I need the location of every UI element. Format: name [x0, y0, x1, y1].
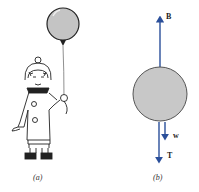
caption-a: (a): [33, 173, 42, 182]
balloon-body: [133, 67, 187, 121]
panel-a-child-with-balloon: (a): [0, 0, 100, 192]
child-balloon-illustration: [0, 0, 100, 192]
balloon-icon: [47, 8, 79, 46]
label-B: B: [166, 12, 171, 21]
panel-b-free-body-diagram: B w T (b): [100, 0, 199, 192]
balloon-string: [63, 46, 64, 100]
caption-b: (b): [153, 173, 162, 182]
label-w: w: [173, 131, 179, 140]
label-T: T: [167, 151, 172, 160]
free-body-diagram: [100, 0, 199, 192]
child-figure: [12, 57, 68, 159]
